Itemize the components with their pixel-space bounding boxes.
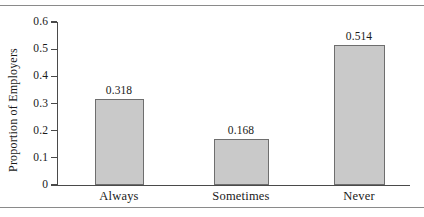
bar-value-label: 0.168 (201, 124, 281, 136)
bar-chart-plot: Proportion of Employers 00.10.20.30.40.5… (0, 0, 424, 217)
x-category-label: Always (64, 190, 174, 203)
bar (95, 99, 144, 185)
y-tick-label: 0.2 (0, 125, 57, 137)
bar (214, 139, 269, 185)
y-tick-label: 0.6 (0, 16, 57, 28)
bar-value-label: 0.318 (79, 84, 159, 96)
y-tick-label: 0.3 (0, 98, 57, 110)
x-category-label: Sometimes (186, 190, 296, 203)
bar (334, 45, 385, 185)
y-tick-label: 0 (0, 179, 57, 191)
y-axis-line (57, 22, 58, 186)
y-tick-label: 0.1 (0, 152, 57, 164)
x-category-label: Never (304, 190, 414, 203)
x-axis-line (57, 185, 410, 186)
y-tick-label: 0.5 (0, 43, 57, 55)
y-tick-label: 0.4 (0, 70, 57, 82)
bar-value-label: 0.514 (319, 30, 399, 42)
figure-container: Proportion of Employers 00.10.20.30.40.5… (0, 0, 424, 217)
